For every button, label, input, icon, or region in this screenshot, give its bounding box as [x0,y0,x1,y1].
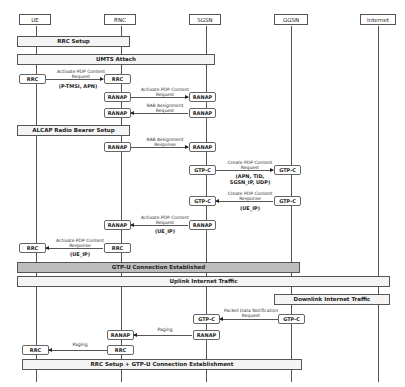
actor-ggsn: GGSN [274,14,308,25]
node-ggsn-gtpc: GTP-C [274,196,301,206]
msg-params: (UE_IP) [215,206,285,212]
node-rnc-ranap: RANAP [104,108,131,118]
node-rnc-rrc: RRC [104,74,131,84]
msg-arrow [216,170,273,171]
node-rnc-ranap: RANAP [104,92,131,102]
msg-arrow [46,79,103,80]
phase-gtpu-established: GTP-U Connection Established [17,262,300,273]
msg-arrow [134,335,192,336]
phase-downlink-traffic: Downlink Internet Traffic [274,294,390,305]
actor-ue: UE [19,14,51,25]
node-sgsn-gtpc: GTP-C [189,165,216,175]
actor-sgsn: SGSN [189,14,221,25]
node-sgsn-ranap: RANAP [193,330,220,340]
msg-arrow [131,113,188,114]
phase-umts-attach: UMTS Attach [17,54,215,65]
node-ue-rrc: RRC [19,243,46,253]
msg-params: (APN, TID, SGSN_IP, UDP) [215,174,285,185]
phase-final-setup: RRC Setup + GTP-U Connection Establishme… [22,359,302,370]
msg-arrow [131,147,188,148]
msg-label: Paging [135,327,195,332]
lifeline-internet [378,26,379,382]
msg-params: (UE_IP) [45,252,115,258]
msg-params: (P-TMSI, APN) [48,84,108,90]
phase-alcap: ALCAP Radio Bearer Setup [17,125,130,136]
msg-arrow [216,201,273,202]
node-ue-rrc: RRC [19,74,46,84]
msg-arrow [131,97,188,98]
node-rnc-ranap: RANAP [104,220,131,230]
actor-internet: Internet [360,14,396,25]
msg-arrow [131,225,188,226]
msg-arrow [46,248,103,249]
node-sgsn-ranap: RANAP [189,92,216,102]
node-sgsn-ranap: RANAP [189,142,216,152]
actor-rnc: RNC [104,14,136,25]
msg-label: Paging [50,342,110,347]
node-rnc-ranap: RANAP [107,330,134,340]
node-sgsn-ranap: RANAP [189,108,216,118]
node-sgsn-gtpc: GTP-C [189,196,216,206]
node-ggsn-gtpc: GTP-C [278,314,305,324]
node-rnc-rrc: RRC [107,345,134,355]
phase-rrc-setup: RRC Setup [17,36,130,47]
node-rnc-ranap: RANAP [104,142,131,152]
msg-arrow [49,350,107,351]
msg-arrow [220,319,278,320]
msg-label: Packet Data Notification Request [215,308,287,318]
msg-params: (UE_IP) [130,229,200,235]
phase-uplink-traffic: Uplink Internet Traffic [17,276,390,287]
node-ue-rrc: RRC [22,345,49,355]
